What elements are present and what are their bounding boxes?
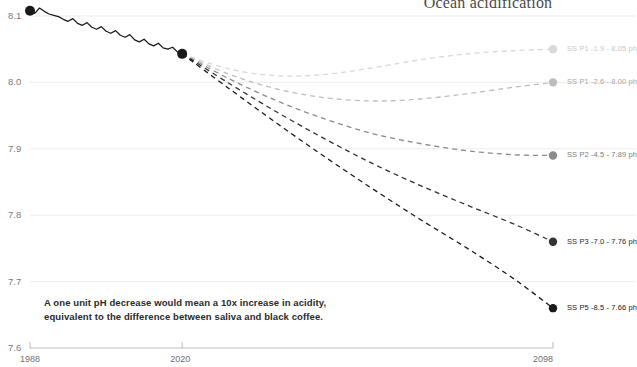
x-axis-tick-label: 1988 [20, 354, 40, 364]
projection-line-3 [182, 54, 553, 156]
legend-item-4[interactable]: SS P3 -7.0 - 7.76 ph [555, 237, 637, 246]
legend-item-label: SS P1 -1.9 - 8.05 ph [567, 44, 637, 53]
x-axis-tick-label: 2020 [170, 354, 190, 364]
projection-line-5 [182, 54, 553, 308]
projection-line-2 [182, 54, 553, 101]
legend-item-label: SS P5 -8.5 - 7.66 ph [567, 303, 637, 312]
legend-item-label: SS P1 -2.6 - 8.00 ph [567, 77, 637, 86]
annotation-line-2: equivalent to the difference between sal… [44, 310, 404, 324]
projection-line-1 [182, 49, 553, 76]
chart-annotation: A one unit pH decrease would mean a 10x … [44, 296, 404, 324]
legend-item-3[interactable]: SS P2 -4.5 - 7.89 ph [555, 150, 637, 159]
legend-item-label: SS P2 -4.5 - 7.89 ph [567, 150, 637, 159]
y-axis-tick-label: 8.1 [8, 11, 34, 21]
y-axis-tick-label: 8.0 [8, 77, 34, 87]
y-axis-tick-label: 7.6 [8, 343, 34, 353]
legend-item-2[interactable]: SS P1 -2.6 - 8.00 ph [555, 77, 637, 86]
y-axis-tick-label: 7.7 [8, 277, 34, 287]
legend-item-1[interactable]: SS P1 -1.9 - 8.05 ph [555, 44, 637, 53]
annotation-line-1: A one unit pH decrease would mean a 10x … [44, 296, 404, 310]
x-axis-tick-label: 2098 [533, 354, 553, 364]
historical-ph-line [30, 8, 182, 54]
y-axis-tick-label: 7.9 [8, 144, 34, 154]
legend-item-label: SS P3 -7.0 - 7.76 ph [567, 237, 637, 246]
legend-item-5[interactable]: SS P5 -8.5 - 7.66 ph [555, 303, 637, 312]
historical-endpoint-marker-2 [177, 49, 187, 59]
y-axis-tick-label: 7.8 [8, 210, 34, 220]
x-axis-line [30, 342, 553, 348]
